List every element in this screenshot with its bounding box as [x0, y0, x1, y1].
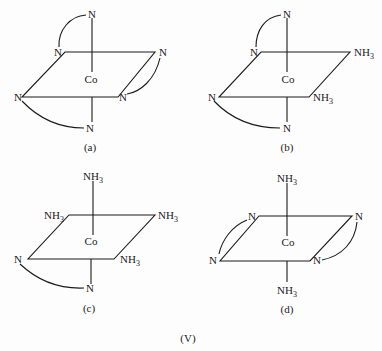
ligand-front-right: NH3	[313, 91, 333, 106]
ligand-back-right: NH3	[158, 209, 178, 224]
panel-b: N N NH3 N NH3 N Co (b)	[208, 8, 374, 154]
ligand-bottom: N	[86, 122, 94, 134]
panel-caption: (b)	[281, 141, 294, 154]
chelate-arc	[22, 101, 84, 128]
ligand-back-left: N	[54, 46, 62, 58]
central-atom: Co	[282, 73, 295, 85]
ligand-front-left: N	[14, 91, 22, 103]
ligand-front-right: NH3	[120, 253, 140, 268]
chelate-arc	[256, 15, 281, 47]
chelate-arc	[322, 222, 357, 260]
panel-caption: (d)	[281, 303, 294, 316]
ligand-back-right: N	[355, 210, 363, 222]
ligand-front-right: N	[119, 91, 127, 103]
panel-d: NH3 N N N N NH3 Co (d)	[209, 172, 363, 316]
panel-caption: (a)	[84, 141, 97, 154]
ligand-back-right: N	[159, 46, 167, 58]
ligand-front-right: N	[313, 254, 321, 266]
chelate-arc	[214, 101, 280, 128]
ligand-front-left: N	[14, 253, 22, 265]
ligand-top: N	[283, 8, 291, 20]
central-atom: Co	[282, 236, 295, 248]
ligand-back-right: NH3	[354, 46, 374, 61]
ligand-top: N	[88, 8, 96, 20]
panel-caption: (c)	[83, 302, 96, 315]
panel-a: N N N N N N Co (a)	[14, 8, 167, 154]
ligand-bottom: N	[283, 122, 291, 134]
chelate-arc	[219, 220, 247, 254]
ligand-back-left: NH3	[44, 209, 64, 224]
ligand-bottom: N	[86, 282, 94, 294]
central-atom: Co	[85, 73, 98, 85]
panel-c: NH3 NH3 NH3 N NH3 N Co (c)	[14, 170, 178, 315]
ligand-back-left: N	[250, 46, 258, 58]
ligand-front-left: N	[209, 254, 217, 266]
ligand-bottom: NH3	[277, 284, 297, 299]
chelate-arc	[59, 15, 86, 47]
chelate-arc	[127, 58, 160, 94]
central-atom: Co	[85, 235, 98, 247]
ligand-back-left: N	[248, 210, 256, 222]
ligand-front-left: N	[208, 91, 216, 103]
octahedral-cobalt-complex-figure: N N N N N N Co (a) N N NH3 N NH3 N Co (b…	[0, 0, 382, 351]
chelate-arc	[20, 264, 84, 288]
figure-label: (V)	[180, 332, 196, 345]
